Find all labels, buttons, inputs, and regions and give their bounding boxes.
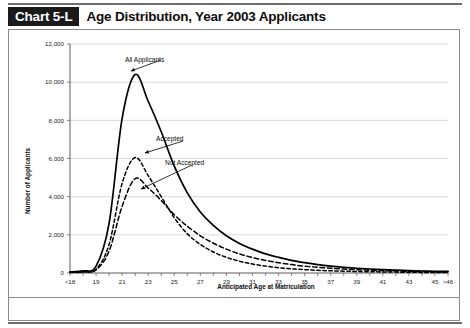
x-tick-label: 23 [145,278,152,285]
chart-page: Chart 5-L Age Distribution, Year 2003 Ap… [0,0,470,328]
y-tick-label: 2,000 [49,231,65,238]
y-tick-label: 4,000 [49,193,65,200]
chart-header: Chart 5-L Age Distribution, Year 2003 Ap… [8,7,326,26]
top-divider [8,3,462,5]
series-line-all-applicants [70,74,448,272]
chart-canvas: 02,0004,0006,0008,00010,00012,000 <18192… [8,29,460,297]
x-tick-label: 25 [171,278,178,285]
data-series [70,74,448,272]
page-title: Age Distribution, Year 2003 Applicants [79,7,325,26]
x-tick-label: 21 [119,278,126,285]
x-tick-label: 41 [379,278,386,285]
y-tick-label: 8,000 [49,117,65,124]
bottom-divider [8,322,462,324]
gridlines [67,44,448,273]
x-tick-label: 43 [405,278,412,285]
chart-number-tag: Chart 5-L [8,7,79,26]
footer-divider [8,297,460,298]
annotation-not-accepted: Not Accepted [165,159,205,167]
x-tick-label: >46 [443,278,454,285]
x-tick-label: 39 [353,278,360,285]
y-tick-label: 6,000 [49,155,65,162]
y-axis-title: Number of Applicants [24,147,32,214]
x-tick-label: 27 [197,278,204,285]
series-line-not-accepted [70,178,448,272]
x-tick-label: 37 [327,278,334,285]
annotation-all-applicants: All Applicants [125,56,165,64]
y-axis-tick-labels: 02,0004,0006,0008,00010,00012,000 [45,40,64,276]
y-tick-label: 10,000 [45,78,64,85]
x-axis-title: Anticipated Age at Matriculation [217,283,315,291]
y-tick-label: 0 [61,269,65,276]
x-tick-label: 45 [432,278,439,285]
leader-accepted [145,141,183,153]
x-tick-label: 19 [93,278,100,285]
annotation-accepted: Accepted [156,135,184,143]
y-tick-label: 12,000 [45,40,64,47]
x-axis-ticks [70,273,448,276]
series-line-accepted [70,157,448,272]
x-tick-label: <18 [65,278,76,285]
